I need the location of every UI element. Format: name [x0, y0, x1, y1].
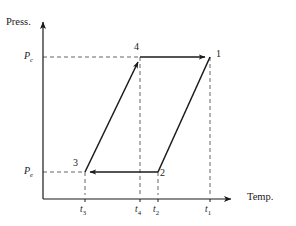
pressure-temperature-cycle-diagram: Press. Temp. Pc Pe t3 t4 t2 t1 1 2 3 4: [0, 0, 296, 226]
tick-label-t3: t3: [80, 205, 86, 217]
x-axis-title: Temp.: [247, 192, 273, 203]
vertex-label-4: 4: [134, 42, 139, 52]
pressure-label-pe-sub: e: [30, 171, 33, 178]
pressure-label-pe: Pe: [24, 166, 33, 179]
vertex-label-1: 1: [216, 49, 221, 59]
tick-label-t2-sub: 2: [156, 209, 159, 216]
tick-label-t4-sub: 4: [138, 209, 141, 216]
vertex-label-3: 3: [73, 158, 78, 168]
pressure-label-pc: Pc: [24, 51, 33, 64]
tick-label-t1: t1: [205, 205, 211, 217]
guide-lines: [43, 57, 210, 195]
segment-1-to-2: [158, 57, 210, 172]
pressure-label-pc-sub: c: [30, 56, 33, 63]
cycle-path: [85, 57, 210, 172]
tick-label-t1-sub: 1: [208, 209, 211, 216]
y-axis-title: Press.: [6, 17, 31, 28]
vertex-label-2: 2: [160, 168, 165, 178]
tick-label-t4: t4: [135, 205, 141, 217]
tick-label-t3-sub: 3: [83, 209, 86, 216]
tick-label-t2: t2: [153, 205, 159, 217]
segment-3-to-4: [85, 62, 138, 172]
